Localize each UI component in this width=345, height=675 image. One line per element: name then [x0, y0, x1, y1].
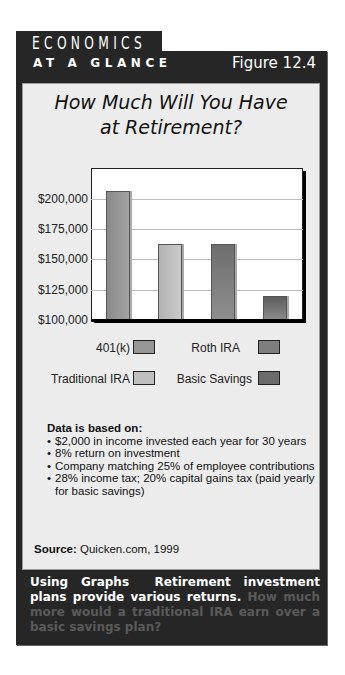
source-label: Source: — [34, 543, 77, 555]
note-item: Company matching 25% of employee contrib… — [47, 460, 317, 473]
note-item: 28% income tax; 20% capital gains tax (p… — [47, 472, 317, 497]
data-notes: Data is based on: $2,000 in income inves… — [47, 422, 317, 497]
legend-swatch-roth-ira — [258, 340, 280, 354]
source-text: Quicken.com, 1999 — [80, 543, 179, 555]
bar-401k — [106, 191, 130, 320]
notes-heading: Data is based on: — [47, 422, 317, 435]
y-tick-label: $150,000 — [30, 252, 88, 266]
notes-list: $2,000 in income invested each year for … — [47, 435, 317, 498]
caption-lead: Using Graphs — [30, 575, 129, 589]
series-subtitle: AT A GLANCE — [33, 56, 172, 70]
caption: Using Graphs Retirement investment plans… — [30, 575, 320, 635]
note-item: 8% return on investment — [47, 447, 317, 460]
legend-label-roth-ira: Roth IRA — [180, 341, 240, 355]
y-tick-label: $175,000 — [30, 222, 88, 236]
note-item: $2,000 in income invested each year for … — [47, 435, 317, 448]
legend-swatch-401k — [133, 340, 155, 354]
chart-title-line1: How Much Will You Have — [22, 90, 320, 115]
x-axis-baseline — [91, 319, 306, 322]
y-tick-label: $200,000 — [30, 192, 88, 206]
legend-label-traditional-ira: Traditional IRA — [30, 372, 130, 386]
y-tick-label: $100,000 — [30, 313, 88, 327]
chart-title: How Much Will You Have at Retirement? — [22, 90, 320, 140]
bar-basic-savings — [263, 296, 287, 320]
legend-label-basic-savings: Basic Savings — [160, 372, 252, 386]
legend-swatch-traditional-ira — [133, 371, 155, 385]
legend-label-401k: 401(k) — [60, 341, 130, 355]
figure-number: Figure 12.4 — [232, 54, 316, 72]
series-title: ECONOMICS — [32, 33, 146, 53]
source-line: Source: Quicken.com, 1999 — [34, 542, 179, 556]
chart-title-line2: at Retirement? — [22, 115, 320, 140]
y-tick-label: $125,000 — [30, 283, 88, 297]
legend-swatch-basic-savings — [258, 371, 280, 385]
bar-roth-ira — [211, 244, 235, 320]
bar-traditional-ira — [158, 244, 182, 320]
